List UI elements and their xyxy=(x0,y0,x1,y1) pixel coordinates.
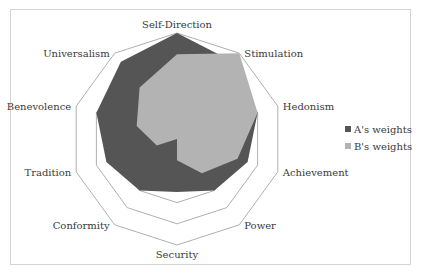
axis-label-conformity: Conformity xyxy=(53,220,110,231)
legend-swatch-b xyxy=(345,143,351,149)
axis-label-hedonism: Hedonism xyxy=(283,101,335,112)
axis-label-tradition: Tradition xyxy=(24,167,71,178)
legend-label-a: A's weights xyxy=(353,124,412,135)
series-areas xyxy=(96,33,257,192)
axis-label-benevolence: Benevolence xyxy=(7,101,71,112)
legend-label-b: B's weights xyxy=(354,141,412,152)
legend: A's weights B's weights xyxy=(345,124,412,152)
axis-label-power: Power xyxy=(244,220,276,231)
axis-label-stimulation: Stimulation xyxy=(244,48,303,59)
radar-chart: Self-DirectionStimulationHedonismAchieve… xyxy=(0,0,421,273)
axis-label-security: Security xyxy=(156,249,199,260)
axis-label-self-direction: Self-Direction xyxy=(142,19,212,30)
legend-swatch-a xyxy=(345,126,351,132)
axis-label-universalism: Universalism xyxy=(43,48,110,59)
axis-label-achievement: Achievement xyxy=(282,167,349,178)
